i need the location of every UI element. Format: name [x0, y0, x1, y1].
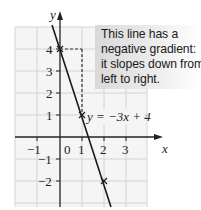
equation-label: y = −3x + 4: [85, 109, 151, 124]
y-tick-label: −1: [38, 152, 52, 167]
callout-line: left to right.: [101, 72, 201, 87]
x-tick-label: 2: [100, 142, 107, 157]
y-tick-label: 3: [46, 64, 53, 79]
x-axis-arrow-icon: [154, 134, 163, 140]
y-tick-label: −2: [38, 174, 52, 189]
callout-line: it slopes down from: [101, 57, 201, 72]
y-axis-label: y: [48, 7, 56, 22]
x-axis-label: x: [161, 141, 168, 156]
gradient-callout: This line has a negative gradient: it sl…: [95, 25, 201, 89]
callout-line: This line has a: [101, 27, 201, 42]
y-tick-label: 2: [46, 86, 53, 101]
x-tick-label: 1: [78, 142, 85, 157]
x-tick-label: 0: [64, 142, 71, 157]
callout-line: negative gradient:: [101, 42, 201, 57]
x-tick-label: 3: [122, 142, 129, 157]
y-axis-arrow-icon: [57, 11, 63, 20]
y-tick-label: 1: [46, 108, 53, 123]
y-tick-label: 4: [46, 42, 53, 57]
linear-graph-figure: y x −1 0 1 2 3 4 3 2 1 −1 −2 y = −3x + 4: [0, 0, 201, 210]
